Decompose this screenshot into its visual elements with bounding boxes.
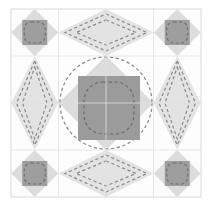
quilt-block-canvas: Quilt Block Pattern — [0, 0, 213, 208]
quilt-block-figure: Quilt Block Pattern — [0, 0, 213, 208]
center-square — [78, 76, 140, 140]
